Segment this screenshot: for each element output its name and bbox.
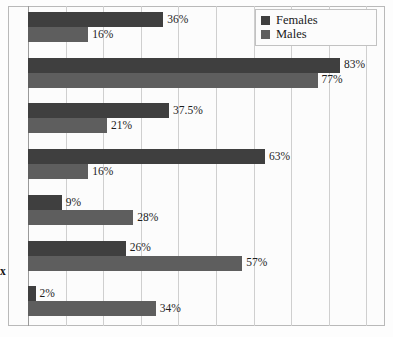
legend-item-females[interactable]: Females (261, 13, 371, 27)
legend-swatch-icon (261, 30, 270, 39)
bar-value-label: 37.5% (173, 105, 203, 117)
bar-group: 83%77% (8, 52, 385, 98)
bar-row: 26% (28, 241, 151, 256)
bar-row: 9% (28, 195, 81, 210)
bar-value-label: 26% (130, 242, 151, 254)
bar-row: 28% (28, 210, 158, 225)
bar-females (28, 195, 62, 210)
bar-males (28, 256, 242, 271)
bar-value-label: 34% (160, 303, 181, 315)
bar-group: 63%16% (8, 143, 385, 189)
bar-females (28, 149, 265, 164)
bar-row: 57% (28, 256, 267, 271)
bar-row: 21% (28, 118, 132, 133)
bar-females (28, 286, 36, 301)
bar-value-label: 2% (40, 288, 55, 300)
bar-row: 2% (28, 286, 55, 301)
bar-group: 37.5%21% (8, 97, 385, 143)
legend-swatch-icon (261, 16, 270, 25)
bar-value-label: 28% (137, 212, 158, 224)
chart-screenshot: 36%16%83%77%37.5%21%63%16%9%28%26%57%2%3… (0, 0, 393, 337)
plot-area: 36%16%83%77%37.5%21%63%16%9%28%26%57%2%3… (8, 6, 385, 326)
clipped-category-label: x (0, 266, 6, 278)
bar-row: 83% (28, 58, 365, 73)
bar-males (28, 164, 88, 179)
bar-value-label: 36% (167, 14, 188, 26)
bar-value-label: 21% (111, 120, 132, 132)
bar-group: 26%57% (8, 235, 385, 281)
bar-row: 16% (28, 27, 113, 42)
bar-value-label: 57% (246, 257, 267, 269)
bar-females (28, 241, 126, 256)
bar-females (28, 58, 340, 73)
bar-row: 37.5% (28, 103, 203, 118)
bar-males (28, 73, 318, 88)
bar-value-label: 63% (269, 151, 290, 163)
bar-row: 36% (28, 12, 188, 27)
bar-value-label: 16% (92, 29, 113, 41)
bar-value-label: 9% (66, 197, 81, 209)
bar-females (28, 103, 169, 118)
bar-males (28, 118, 107, 133)
bar-males (28, 301, 156, 316)
bar-row: 63% (28, 149, 290, 164)
bar-value-label: 83% (344, 59, 365, 71)
bar-row: 77% (28, 73, 343, 88)
legend-item-males[interactable]: Males (261, 27, 371, 41)
bar-females (28, 12, 163, 27)
bar-group: 2%34% (8, 280, 385, 326)
bar-value-label: 77% (322, 74, 343, 86)
bar-row: 16% (28, 164, 113, 179)
chart-legend: FemalesMales (255, 9, 377, 46)
bar-value-label: 16% (92, 166, 113, 178)
bar-males (28, 27, 88, 42)
bar-row: 34% (28, 301, 181, 316)
bar-group: 9%28% (8, 189, 385, 235)
bar-males (28, 210, 133, 225)
legend-label: Females (276, 14, 318, 27)
legend-label: Males (276, 28, 307, 41)
